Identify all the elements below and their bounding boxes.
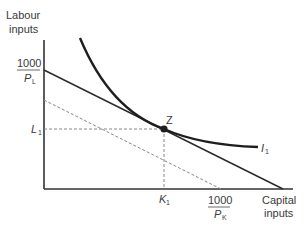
y-intercept-numerator: 1000 (17, 57, 41, 69)
l1-label-sub: 1 (38, 129, 42, 136)
isoquant-label-sub: 1 (265, 148, 269, 155)
y-intercept-denominator-sub: L (32, 78, 36, 85)
x-axis-label-line2: inputs (264, 207, 294, 219)
point-z-label: Z (166, 114, 173, 126)
isoquant-curve (80, 38, 258, 147)
y-axis-label-line1: Labour (6, 9, 41, 21)
y-axis-label-line2: inputs (9, 23, 39, 35)
isoquant-label: I (261, 142, 264, 154)
y-intercept-denominator: P (24, 72, 32, 84)
l1-label: L (31, 123, 37, 135)
x-intercept-denominator-sub: K (222, 214, 227, 221)
isoquant-diagram: Labour inputs 1000 P L L 1 Z I 1 K 1 100… (0, 0, 305, 230)
x-intercept-numerator: 1000 (208, 194, 232, 206)
x-intercept-denominator: P (214, 208, 222, 220)
x-axis-label-line1: Capital (262, 194, 296, 206)
tangency-point-z (160, 125, 167, 132)
k1-label-sub: 1 (166, 199, 170, 206)
